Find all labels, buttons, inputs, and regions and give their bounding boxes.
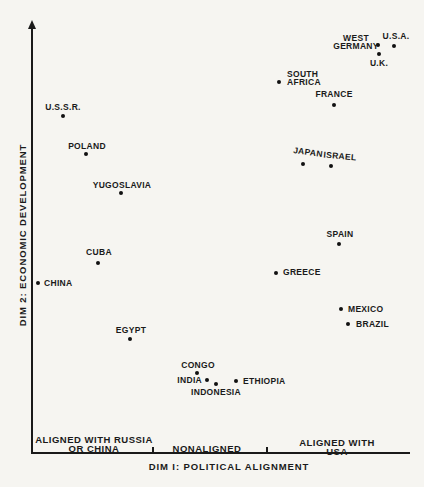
y-axis-line: [31, 25, 33, 454]
x-axis-region-label-aligned-with-russia: ALIGNED WITH RUSSIA OR CHINA: [35, 435, 153, 453]
data-point-greece: [274, 271, 278, 275]
data-point-mexico: [339, 307, 343, 311]
x-axis-tick: [266, 447, 268, 453]
y-axis-title: DIM 2: ECONOMIC DEVELOPMENT: [17, 144, 28, 327]
data-label-south-africa: SOUTH AFRICA: [287, 70, 321, 86]
data-label-india: INDIA: [177, 376, 202, 384]
data-label-china: CHINA: [44, 279, 72, 287]
data-point-egypt: [128, 337, 132, 341]
data-point-israel: [329, 164, 333, 168]
data-label-france: FRANCE: [315, 90, 352, 98]
x-axis-region-label-aligned-with-usa: ALIGNED WITH USA: [294, 438, 381, 456]
x-axis-region-label-nonaligned: NONALIGNED: [173, 444, 242, 453]
data-point-u-s-a: [392, 44, 396, 48]
data-label-u-s-s-r: U.S.S.R.: [45, 103, 80, 111]
data-label-spain: SPAIN: [327, 230, 354, 238]
data-label-greece: GREECE: [283, 268, 321, 276]
mds-scatter-figure: ALIGNED WITH RUSSIA OR CHINANONALIGNEDAL…: [0, 0, 424, 487]
data-label-congo: CONGO: [181, 361, 215, 369]
data-label-israel: ISRAEL: [323, 151, 357, 162]
data-label-mexico: MEXICO: [348, 305, 383, 313]
x-axis-title: DIM I: POLITICAL ALIGNMENT: [149, 461, 310, 472]
data-point-ethiopia: [234, 379, 238, 383]
data-point-japan: [301, 162, 305, 166]
y-axis-arrowhead-icon: [28, 20, 36, 29]
data-point-u-s-s-r: [61, 114, 65, 118]
data-label-u-s-a: U.S.A.: [383, 32, 410, 40]
data-label-yugoslavia: YUGOSLAVIA: [93, 181, 152, 189]
data-label-cuba: CUBA: [86, 248, 112, 256]
data-point-yugoslavia: [119, 191, 123, 195]
data-label-west-germany: WEST GERMANY: [333, 34, 379, 50]
data-label-egypt: EGYPT: [116, 326, 146, 334]
data-point-india: [205, 378, 209, 382]
data-point-spain: [337, 242, 341, 246]
data-point-indonesia: [214, 382, 218, 386]
data-label-u-k: U.K.: [370, 59, 388, 67]
data-point-south-africa: [277, 80, 281, 84]
data-point-poland: [84, 152, 88, 156]
data-point-brazil: [346, 322, 350, 326]
data-label-brazil: BRAZIL: [356, 320, 389, 328]
data-point-france: [332, 103, 336, 107]
plot-area: ALIGNED WITH RUSSIA OR CHINANONALIGNEDAL…: [0, 0, 424, 487]
data-point-u-k: [377, 52, 381, 56]
data-point-cuba: [96, 261, 100, 265]
data-label-japan: JAPAN: [293, 146, 324, 158]
data-label-indonesia: INDONESIA: [191, 388, 241, 396]
data-point-china: [36, 281, 40, 285]
data-label-poland: POLAND: [68, 142, 106, 150]
data-label-ethiopia: ETHIOPIA: [243, 377, 286, 385]
